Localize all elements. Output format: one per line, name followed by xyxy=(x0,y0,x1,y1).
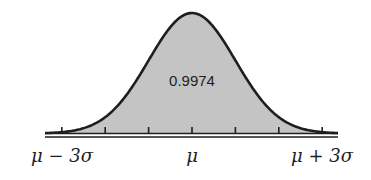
tick-label-minus-3-sigma: μ − 3σ xyxy=(31,145,94,166)
tick-label-mu: μ xyxy=(186,145,198,166)
tick-label-plus-3-sigma: μ + 3σ xyxy=(291,145,354,166)
area-probability-label: 0.9974 xyxy=(169,72,215,89)
normal-distribution-chart: 0.9974 μ − 3σ μ μ + 3σ xyxy=(0,0,371,180)
